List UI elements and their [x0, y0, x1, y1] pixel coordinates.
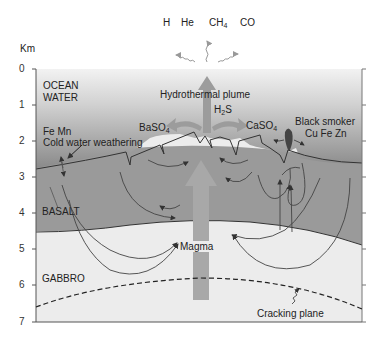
- cu-fe-zn-label: Cu Fe Zn: [305, 128, 347, 139]
- tick-7: 7: [19, 316, 33, 327]
- tick-5: 5: [19, 243, 33, 254]
- h2s-label: H2S: [214, 104, 232, 115]
- caso4-label: CaSO4: [246, 120, 277, 131]
- axis-unit-label: Km: [20, 43, 35, 54]
- gabbro-label: GABBRO: [42, 273, 85, 284]
- magma-label: Magma: [179, 241, 214, 252]
- gas-co: CO: [240, 17, 255, 28]
- cold-water-weathering-label: Cold water weathering: [43, 137, 143, 148]
- basalt-label: BASALT: [42, 206, 80, 217]
- tick-2: 2: [19, 135, 33, 146]
- hydrothermal-diagram: [0, 0, 385, 346]
- ocean-label-1: OCEAN: [43, 80, 79, 91]
- cracking-plane-label: Cracking plane: [257, 308, 324, 319]
- tick-0: 0: [19, 63, 33, 74]
- tick-6: 6: [19, 279, 33, 290]
- black-smoker-label: Black smoker: [295, 116, 355, 127]
- fe-mn-label: Fe Mn: [43, 126, 71, 137]
- gas-he: He: [181, 17, 194, 28]
- tick-4: 4: [19, 207, 33, 218]
- tick-3: 3: [19, 171, 33, 182]
- ocean-label-2: WATER: [43, 92, 78, 103]
- gas-h: H: [163, 17, 170, 28]
- gas-arrows: [176, 41, 238, 62]
- baso4-label: BaSO4: [139, 122, 170, 133]
- tick-1: 1: [19, 99, 33, 110]
- right-axis: [362, 69, 366, 322]
- plume-label: Hydrothermal plume: [160, 89, 250, 100]
- gas-ch4: CH4: [209, 17, 227, 28]
